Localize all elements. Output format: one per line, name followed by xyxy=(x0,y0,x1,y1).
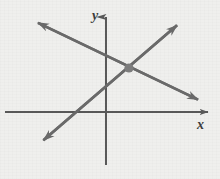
intersection-point xyxy=(124,63,133,72)
y-axis-label: y xyxy=(92,9,98,23)
coordinate-plot xyxy=(0,0,220,179)
ascending-line-tail xyxy=(43,25,177,140)
graph-figure: y x xyxy=(0,0,220,179)
x-axis-label: x xyxy=(197,118,204,132)
descending-line-tail xyxy=(38,23,198,100)
